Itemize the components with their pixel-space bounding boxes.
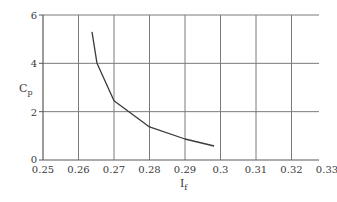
x-tick-label: 0.27 [103, 164, 125, 175]
x-tick-label: 0.32 [280, 164, 302, 175]
x-axis-ticks: 0.250.260.270.280.290.30.310.320.33 [32, 164, 337, 175]
x-tick-label: 0.3 [213, 164, 229, 175]
x-tick-label: 0.25 [32, 164, 54, 175]
x-axis-label: If [180, 177, 188, 192]
y-axis-label: Cp [19, 82, 33, 97]
x-tick-label: 0.26 [67, 164, 89, 175]
y-tick-label: 2 [31, 107, 37, 118]
x-tick-label: 0.31 [245, 164, 267, 175]
y-tick-label: 6 [31, 10, 37, 21]
y-tick-label: 4 [31, 58, 37, 69]
y-tick-label: 0 [31, 154, 37, 165]
line-chart: 0.250.260.270.280.290.30.310.320.33 0246… [0, 0, 337, 202]
series-line-cp [92, 32, 214, 146]
x-tick-label: 0.28 [138, 164, 160, 175]
x-tick-label: 0.29 [174, 164, 196, 175]
x-tick-label: 0.33 [316, 164, 337, 175]
